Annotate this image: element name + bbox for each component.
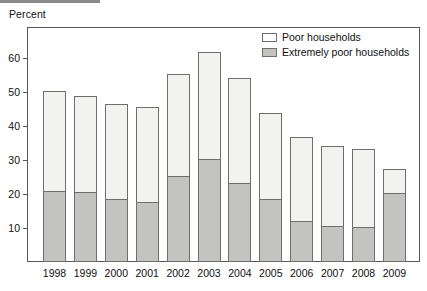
bar-1998	[43, 91, 66, 262]
bar-segment-extremely-poor-2009	[383, 193, 406, 262]
bar-segment-extremely-poor-2000	[105, 199, 128, 262]
y-tick-mark-40	[23, 126, 28, 127]
y-tick-mark-30	[23, 160, 28, 161]
y-tick-label-10: 10	[0, 222, 20, 234]
y-tick-label-60: 60	[0, 52, 20, 64]
bar-segment-extremely-poor-2006	[290, 221, 313, 262]
bar-segment-extremely-poor-1998	[43, 191, 66, 262]
legend-label-extremely-poor: Extremely poor households	[282, 46, 409, 58]
bar-2003	[198, 52, 221, 262]
bar-segment-extremely-poor-2004	[228, 183, 251, 262]
y-tick-mark-20	[23, 194, 28, 195]
bar-2005	[259, 113, 282, 262]
y-tick-mark-50	[23, 92, 28, 93]
bar-2008	[352, 149, 375, 262]
legend-item-extremely-poor: Extremely poor households	[262, 46, 409, 58]
legend-item-poor: Poor households	[262, 31, 409, 43]
bar-2007	[321, 146, 344, 262]
bar-2002	[167, 74, 190, 262]
bar-2004	[228, 78, 251, 262]
bar-1999	[74, 96, 97, 262]
y-tick-label-30: 30	[0, 154, 20, 166]
bar-segment-extremely-poor-2007	[321, 226, 344, 262]
y-tick-label-20: 20	[0, 188, 20, 200]
bar-segment-extremely-poor-1999	[74, 192, 97, 262]
bar-2001	[136, 107, 159, 262]
bar-2006	[290, 137, 313, 262]
y-tick-mark-60	[23, 58, 28, 59]
bar-segment-extremely-poor-2001	[136, 202, 159, 262]
legend-swatch-extremely-poor-icon	[262, 48, 277, 57]
bar-segment-extremely-poor-2002	[167, 176, 190, 262]
y-tick-label-50: 50	[0, 86, 20, 98]
bar-segment-extremely-poor-2005	[259, 199, 282, 262]
y-tick-mark-10	[23, 228, 28, 229]
legend-label-poor: Poor households	[282, 31, 361, 43]
bar-2000	[105, 104, 128, 262]
chart-legend: Poor households Extremely poor household…	[262, 31, 409, 61]
bar-segment-extremely-poor-2008	[352, 227, 375, 262]
bar-2009	[383, 169, 406, 262]
y-tick-label-40: 40	[0, 120, 20, 132]
x-tick-label-2009: 2009	[374, 267, 414, 279]
legend-swatch-poor-icon	[262, 33, 277, 42]
bar-segment-extremely-poor-2003	[198, 159, 221, 262]
